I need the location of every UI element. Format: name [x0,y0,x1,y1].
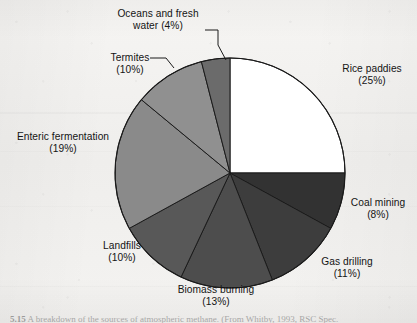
slice-label-gas-percent: (11%) [304,268,390,280]
slice-label-oceans-and-fresh-water: Oceans and fresh water (4%) [100,8,216,31]
slice-label-coal-name: Coal mining [340,197,416,209]
slice-label-gas-name: Gas drilling [304,256,390,268]
slice-label-oceans-line1: Oceans and fresh [100,8,216,20]
slice-label-termites-name: Termites [96,52,164,64]
slice-label-enteric-name: Enteric fermentation [2,131,124,143]
slice-label-termites-percent: (10%) [96,64,164,76]
slice-label-oceans-line2: water (4%) [100,20,216,32]
slice-label-enteric-percent: (19%) [2,143,124,155]
slice-label-termites: Termites (10%) [96,52,164,75]
slice-label-landfills-percent: (10%) [84,252,160,264]
pie-slice-rice-paddies[interactable] [230,58,345,173]
slice-label-landfills: Landfills (10%) [84,240,160,263]
slice-label-biomass-name: Biomass burning [162,284,270,296]
slice-label-rice-percent: (25%) [330,75,414,87]
figure-caption: 5.15 A breakdown of the sources of atmos… [0,314,417,323]
slice-label-rice-name: Rice paddies [330,63,414,75]
slice-label-coal-mining: Coal mining (8%) [340,197,416,220]
pie-chart: Oceans and fresh water (4%) Termites (10… [0,0,417,323]
slice-label-rice-paddies: Rice paddies (25%) [330,63,414,86]
leader-line-oceans [205,30,226,60]
slice-label-biomass-burning: Biomass burning (13%) [162,284,270,307]
slice-label-coal-percent: (8%) [340,209,416,221]
figure-caption-number: 5.15 [10,314,26,323]
slice-label-gas-drilling: Gas drilling (11%) [304,256,390,279]
figure-caption-text: A breakdown of the sources of atmospheri… [28,314,339,323]
slice-label-landfills-name: Landfills [84,240,160,252]
slice-label-biomass-percent: (13%) [162,296,270,308]
slice-label-enteric-fermentation: Enteric fermentation (19%) [2,131,124,154]
